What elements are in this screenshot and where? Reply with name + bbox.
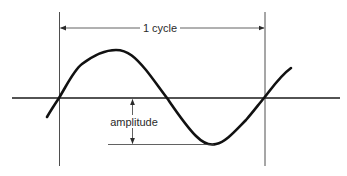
cycle-label: 1 cycle (143, 22, 177, 34)
sine-wave-diagram: 1 cycle amplitude (0, 0, 347, 176)
amplitude-label: amplitude (110, 116, 158, 128)
